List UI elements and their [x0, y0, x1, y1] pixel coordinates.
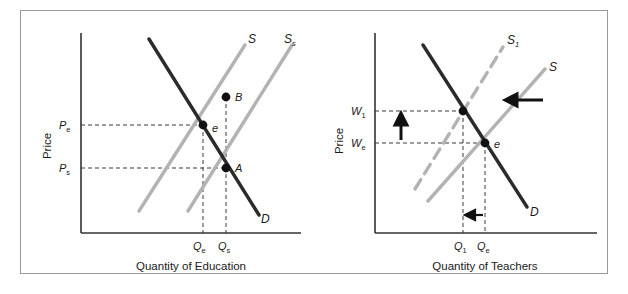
supply-curve-s — [428, 69, 545, 201]
teachers-diagram: e S1 S D — [315, 11, 609, 275]
point-label-b: B — [235, 91, 242, 103]
caption-education: Quantity of Education — [136, 260, 246, 272]
curve-label-d: D — [261, 212, 270, 226]
figure-frame: e B A S Ss D Pe Ps Qe Qs Price Quantity … — [20, 10, 608, 274]
point-label-a: A — [234, 162, 242, 174]
supply-curve-s — [139, 45, 245, 211]
y-tick-w1: W1 — [351, 105, 366, 120]
wage-increase-arrow — [395, 113, 407, 140]
curve-label-s: S — [248, 32, 256, 46]
point-label-e: e — [494, 138, 500, 150]
chart-panel-education: e B A S Ss D Pe Ps Qe Qs Price Quantity … — [21, 11, 315, 275]
x-tick-qs: Qs — [218, 240, 231, 255]
curve-label-ss: Ss — [284, 32, 296, 48]
curve-label-s1: S1 — [507, 33, 519, 49]
demand-curve-d — [423, 45, 527, 207]
point-e-marker — [199, 121, 208, 130]
point-label-e: e — [212, 122, 218, 134]
caption-teachers: Quantity of Teachers — [432, 260, 538, 272]
point-w1-marker — [459, 107, 468, 116]
curve-label-d: D — [530, 205, 539, 219]
x-tick-qe: Qe — [193, 240, 206, 255]
point-e-marker — [481, 139, 490, 148]
y-axis-title-education: Price — [41, 133, 53, 159]
figure-root: e B A S Ss D Pe Ps Qe Qs Price Quantity … — [0, 0, 628, 294]
curve-label-s: S — [549, 60, 557, 74]
education-diagram: e B A S Ss D Pe Ps Qe Qs Price Quantity … — [21, 11, 315, 275]
x-tick-qe: Qe — [477, 240, 490, 255]
y-tick-pe: Pe — [59, 119, 71, 134]
chart-panel-teachers: e S1 S D — [315, 11, 609, 275]
y-tick-ps: Ps — [59, 162, 70, 177]
y-tick-we: We — [351, 137, 366, 152]
y-axis-title-teachers: Price — [333, 128, 345, 154]
point-a-marker — [222, 164, 231, 173]
supply-shift-arrow — [505, 94, 543, 106]
quantity-decrease-arrow — [465, 210, 483, 220]
x-tick-q1: Q1 — [454, 240, 467, 255]
point-b-marker — [222, 93, 231, 102]
